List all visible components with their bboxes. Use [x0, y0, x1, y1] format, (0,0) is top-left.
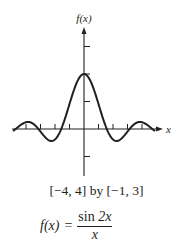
formula-sin: sin [78, 209, 94, 224]
window-range-caption: [−4, 4] by [−1, 3] [0, 183, 193, 199]
y-axis-arrow-icon [82, 27, 87, 34]
formula-denominator: x [92, 227, 98, 242]
formula-numerator: sin 2x [77, 210, 112, 227]
y-axis-label: f(x) [76, 12, 92, 25]
formula-lhs: f(x) [40, 218, 59, 234]
formula-fraction: sin 2x x [77, 210, 112, 242]
y-ticks [84, 47, 90, 157]
function-formula: f(x) = sin 2x x [40, 210, 112, 242]
x-axis-arrow-icon [156, 127, 163, 132]
x-axis-label: x [165, 123, 171, 135]
formula-arg: 2x [98, 209, 111, 224]
formula-equals: = [64, 218, 72, 234]
function-graph: x f(x) [0, 0, 193, 180]
